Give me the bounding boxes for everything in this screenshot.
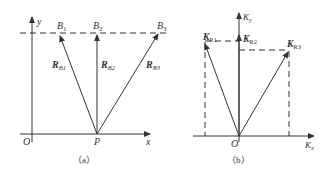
origin-label: O — [23, 136, 30, 147]
point-b3-label: B3 — [157, 20, 167, 33]
origin-label-b: O — [231, 138, 238, 149]
ky-axis-label: Ky — [242, 12, 252, 23]
vector-kr3 — [239, 52, 288, 136]
vector-rb2-label: RB2 — [100, 59, 116, 71]
caption-b: （b） — [227, 155, 250, 165]
vector-kr2-label: KR2 — [242, 34, 257, 45]
vector-rb3 — [97, 34, 158, 134]
vector-kr1-label: KR1 — [202, 32, 217, 43]
kx-axis-label: Kx — [304, 140, 314, 151]
x-axis-label: x — [145, 136, 151, 147]
vector-rb3-label: RB3 — [145, 59, 161, 71]
vector-kr3-label: KR3 — [286, 39, 301, 50]
point-p-label: P — [93, 136, 100, 147]
vector-rb1-label: RB1 — [51, 59, 66, 71]
figure-b: Ky Kx O KR1 KR2 KR3 （b） — [193, 12, 314, 165]
figure-a: y x O P B1 B2 B3 RB1 RB2 RB3 （a） — [20, 16, 167, 165]
point-b1-label: B1 — [57, 20, 67, 33]
point-b2-label: B2 — [93, 20, 103, 33]
y-axis-label: y — [36, 16, 42, 27]
vector-rb1 — [60, 36, 97, 134]
diagram-canvas: y x O P B1 B2 B3 RB1 RB2 RB3 （a） Ky Kx O… — [0, 0, 329, 178]
vector-kr1 — [205, 44, 239, 136]
caption-a: （a） — [73, 155, 95, 165]
